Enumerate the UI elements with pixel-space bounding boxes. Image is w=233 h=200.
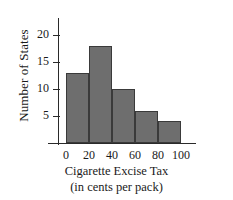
x-axis-title: Cigarette Excise Tax [65, 164, 169, 178]
x-axis-title-block: Cigarette Excise Tax (in cents per pack) [0, 163, 233, 195]
y-tick-5 [53, 116, 60, 117]
plot-area: 5 10 15 20 0 20 40 60 80 100 [66, 18, 181, 143]
x-tick-label-20: 20 [77, 148, 101, 163]
y-tick-label-20: 20 [37, 27, 49, 42]
y-tick-10 [53, 89, 60, 90]
x-tick-label-40: 40 [100, 148, 124, 163]
x-axis-subtitle: (in cents per pack) [0, 179, 233, 195]
x-tick-label-100: 100 [169, 148, 193, 163]
x-axis-line [48, 143, 196, 144]
histogram-bar-80-100 [158, 121, 181, 143]
y-tick-20 [53, 35, 60, 36]
histogram-bar-40-60 [112, 89, 135, 143]
histogram-bar-20-40 [89, 46, 112, 143]
y-tick-label-10: 10 [37, 81, 49, 96]
x-tick-label-0: 0 [54, 148, 78, 163]
y-tick-label-5: 5 [43, 108, 49, 123]
y-tick-label-15: 15 [37, 54, 49, 69]
y-axis-title: Number of States [16, 3, 32, 148]
y-tick-15 [53, 62, 60, 63]
x-tick-label-80: 80 [146, 148, 170, 163]
x-tick-label-60: 60 [123, 148, 147, 163]
histogram-figure: Number of States 5 10 15 20 0 20 40 60 [0, 0, 233, 200]
y-axis-line [58, 18, 59, 145]
histogram-bar-0-20 [66, 73, 89, 143]
histogram-bar-60-80 [135, 111, 158, 143]
